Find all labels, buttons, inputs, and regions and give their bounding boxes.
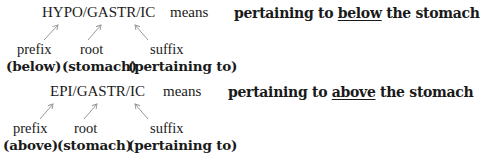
- arrow-root-1: [88, 25, 101, 40]
- part-label-prefix: prefix: [17, 41, 52, 58]
- definition-text: the stomach: [382, 5, 480, 21]
- part-label-root: root: [74, 120, 97, 137]
- gloss-suffix: (pertaining to): [128, 137, 237, 153]
- part-label-prefix: prefix: [13, 120, 48, 137]
- gloss-prefix: (below): [6, 58, 61, 74]
- means-label: means: [170, 4, 208, 21]
- gloss-root: (stomach): [57, 137, 132, 153]
- term-word: EPI/GASTR/IC: [50, 83, 145, 100]
- arrow-prefix-1: [44, 25, 58, 40]
- definition: pertaining to below the stomach: [234, 5, 480, 21]
- arrow-suffix-2: [135, 104, 148, 119]
- arrow-root-2: [84, 104, 97, 119]
- definition-text: pertaining to: [228, 84, 332, 100]
- part-label-suffix: suffix: [150, 41, 184, 58]
- part-label-root: root: [80, 41, 103, 58]
- definition-text: pertaining to: [234, 5, 338, 21]
- definition-text: the stomach: [376, 84, 474, 100]
- term-word: HYPO/GASTR/IC: [42, 4, 155, 21]
- definition-emphasis: below: [338, 5, 382, 21]
- part-label-suffix: suffix: [150, 120, 184, 137]
- arrow-prefix-2: [40, 104, 53, 119]
- arrow-suffix-1: [135, 25, 148, 40]
- gloss-root: (stomach): [62, 58, 137, 74]
- definition: pertaining to above the stomach: [228, 84, 473, 100]
- means-label: means: [163, 83, 201, 100]
- gloss-prefix: (above): [3, 137, 58, 153]
- gloss-suffix: (pertaining to): [128, 58, 237, 74]
- definition-emphasis: above: [332, 84, 376, 100]
